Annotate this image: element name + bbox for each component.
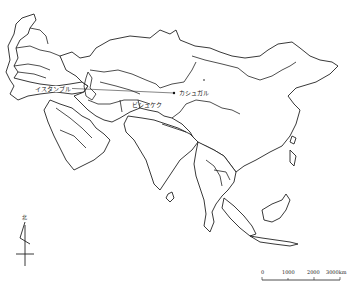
- north-arrow: [16, 222, 34, 266]
- philippines: [290, 150, 296, 166]
- city-label-istanbul: イスタンブル: [34, 86, 72, 92]
- sri-lanka: [166, 192, 174, 202]
- scale-bar: [262, 277, 340, 280]
- city-label-kashgar: カシュガル: [179, 90, 209, 96]
- java: [250, 236, 298, 246]
- city-label-bishkek: ビシュケク: [132, 102, 162, 108]
- scale-tick-1000: 1000: [282, 270, 295, 275]
- asia-map: [0, 0, 350, 291]
- taiwan: [290, 136, 296, 144]
- kashgar-marker: [173, 92, 175, 94]
- borneo: [262, 194, 290, 222]
- sumatra: [222, 198, 256, 236]
- scale-tick-3000km: 3000km: [326, 270, 347, 275]
- scale-tick-0: 0: [261, 270, 264, 275]
- scale-tick-2000: 2000: [307, 270, 320, 275]
- city-marker: [203, 79, 205, 81]
- north-label: 北: [22, 215, 27, 220]
